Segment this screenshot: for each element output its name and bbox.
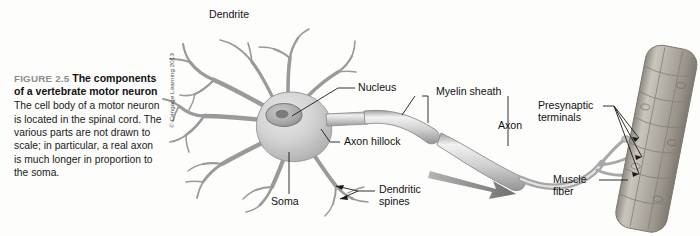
caption-body-text: The cell body of a motor neuron is locat… (14, 99, 162, 179)
caption-heading: FIGURE 2.5 The components of a vertebrat… (14, 72, 162, 98)
figure-number: FIGURE 2.5 (14, 73, 69, 84)
figure-caption: FIGURE 2.5 The components of a vertebrat… (14, 72, 162, 179)
label-dendrite: Dendrite (209, 8, 249, 20)
copyright-notice: © Cengage Learning 2013 (168, 53, 175, 128)
label-dendritic-spines-line1: Dendritic (379, 183, 421, 195)
label-axon: Axon (498, 119, 522, 131)
nucleus-organelle (266, 104, 302, 127)
figure-container: FIGURE 2.5 The components of a vertebrat… (0, 0, 700, 236)
label-soma: Soma (271, 195, 299, 207)
label-muscle-fiber-line2: fiber (553, 185, 574, 197)
label-dendritic-spines-line2: spines (379, 195, 410, 207)
label-myelin-sheath: Myelin sheath (436, 85, 501, 97)
label-presynaptic-terminals-line2: terminals (538, 111, 581, 123)
label-axon-hillock: Axon hillock (344, 135, 401, 147)
label-muscle-fiber-line1: Muscle (553, 173, 587, 185)
label-nucleus: Nucleus (358, 81, 396, 93)
label-presynaptic-terminals-line1: Presynaptic (538, 99, 593, 111)
soma-cell-body (256, 92, 331, 162)
